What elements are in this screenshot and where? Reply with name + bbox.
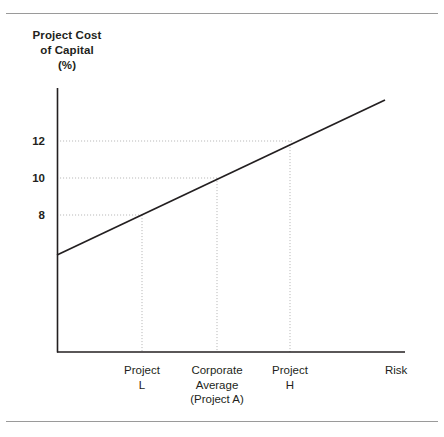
security-market-line [57,100,385,255]
y-axis-title-line-2: of Capital [14,43,120,58]
x-label-project-h-line-2: H [250,378,330,393]
y-axis-title: Project Costof Capital(%) [14,28,120,73]
y-tick-label-8: 8 [17,209,45,221]
vertical-droplines [142,141,290,352]
horizontal-gridlines [57,141,292,215]
y-axis-title-line-3: (%) [14,58,120,73]
y-tick-label-12: 12 [17,135,45,147]
x-label-risk: Risk [385,363,444,378]
x-label-risk-line-1: Risk [385,363,444,378]
x-label-project-h-line-1: Project [250,363,330,378]
x-label-corporate-average-line-3: (Project A) [167,392,267,407]
y-axis-title-line-1: Project Cost [14,28,120,43]
y-tick-label-10: 10 [17,172,45,184]
x-label-project-h: ProjectH [250,363,330,392]
